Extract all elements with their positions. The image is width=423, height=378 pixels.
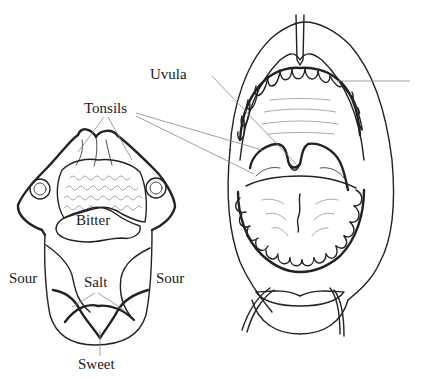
salt-arc-left [53,290,100,338]
label-sour-left: Sour [9,271,37,286]
anatomy-figure: Uvula Tonsils Bitter Sour Salt Sour Swee… [0,0,423,378]
tongue-back-outline [18,135,78,235]
right-tonsil [146,178,166,198]
illustration-svg [0,0,423,378]
upper-teeth [238,69,362,140]
upper-lip-outline [230,22,394,300]
sour-right-boundary [120,248,150,318]
left-tonsil-inner [34,183,46,195]
right-tonsil-inner [150,182,162,194]
label-salt: Salt [84,275,107,290]
tonsils-leader-to-tongue-left [78,117,104,152]
palate-lines [262,99,338,135]
epiglottis [78,129,118,137]
mouth-drawing [228,15,393,336]
label-tonsils: Tonsils [84,101,127,116]
mouth-tongue [246,176,356,188]
sweet-arc [65,305,134,322]
tonsils-leader-to-tongue-right [108,117,132,160]
lower-teeth-arch [238,190,364,272]
label-sweet: Sweet [78,357,115,372]
uvula-leader [212,76,296,164]
median-sulcus [297,194,300,232]
tonsils-leader-to-mouth-lower [136,116,254,174]
salt-arc-right [100,290,148,338]
label-sour-right: Sour [156,271,184,286]
papillae-texture [64,176,142,210]
inner-lip [240,54,364,160]
epiglottis-folds [76,137,112,166]
label-uvula: Uvula [150,67,187,82]
left-cheek-outline [228,150,272,312]
label-bitter: Bitter [76,213,110,228]
left-tonsil [30,179,50,199]
tongue-drawing [18,129,175,345]
